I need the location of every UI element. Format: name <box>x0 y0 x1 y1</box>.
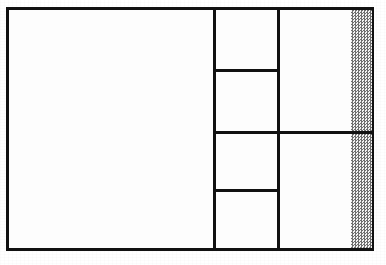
region-upper-right-room <box>280 10 351 131</box>
wall-horizontal-lower-box-top <box>213 189 280 192</box>
hatch-strip-upper <box>351 10 372 131</box>
hatch-strip-lower <box>351 134 372 248</box>
wall-vertical-secondary-divider <box>277 7 280 251</box>
region-large-left-room <box>9 10 213 248</box>
floor-plan-diagram: Floor Plan Diagram <box>0 0 386 265</box>
wall-horizontal-center-full-span <box>213 131 374 134</box>
wall-vertical-main-divider <box>213 7 216 251</box>
region-lower-middle-small-room <box>216 192 277 248</box>
wall-horizontal-upper-box-bottom <box>213 69 280 72</box>
region-upper-middle-lower-room <box>216 72 277 131</box>
region-lower-middle-upper-room <box>216 134 277 189</box>
region-lower-right-room <box>280 134 351 248</box>
region-upper-middle-small-room <box>216 10 277 69</box>
